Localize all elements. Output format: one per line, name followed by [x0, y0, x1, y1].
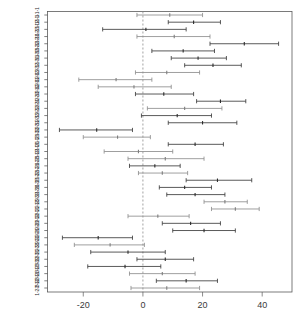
forest-plot-canvas: 2-1-1-13-1-1-11-2-1-12-2-1-13-2-1-11-3-1… — [0, 0, 303, 323]
group-label: 1-2-3-2 — [34, 280, 40, 296]
forest-plot-figure: 2-1-1-13-1-1-11-2-1-12-2-1-13-2-1-11-3-1… — [0, 0, 303, 323]
x-axis-tick-label: 20 — [198, 300, 208, 310]
x-axis-tick-label: -20 — [77, 300, 90, 310]
x-axis-tick-label: 0 — [140, 300, 145, 310]
x-axis-tick-label: 40 — [257, 300, 267, 310]
